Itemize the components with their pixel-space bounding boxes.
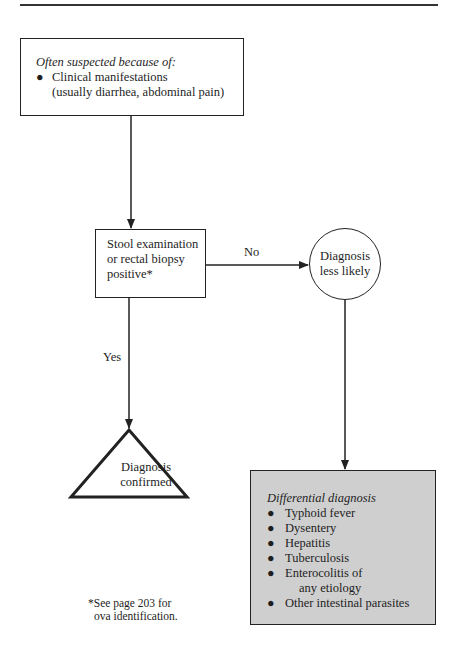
differential-item-text: Hepatitis	[285, 536, 330, 550]
bullet-icon: ●	[36, 70, 44, 85]
start-box-item-line2: (usually diarrhea, abdominal pain)	[52, 85, 235, 100]
decision-line-1: Stool examination	[107, 237, 201, 252]
bullet-icon: ●	[267, 521, 275, 536]
triangle-line-1: Diagnosis	[101, 460, 191, 475]
differential-item-text: Tuberculosis	[285, 551, 349, 565]
differential-item: ● Hepatitis	[267, 536, 429, 551]
start-box-item-line1: Clinical manifestations	[52, 70, 235, 85]
differential-item: ● Other intestinal parasites	[267, 596, 429, 611]
confirmed-triangle-label: Diagnosis confirmed	[101, 460, 191, 490]
decision-line-2: or rectal biopsy	[107, 252, 201, 267]
differential-item-text: Typhoid fever	[285, 506, 355, 520]
differential-item-continuation: any etiology	[285, 581, 429, 596]
differential-diagnosis-box: Differential diagnosis ● Typhoid fever ●…	[250, 470, 436, 625]
bullet-icon: ●	[267, 551, 275, 566]
circle-line-1: Diagnosis	[320, 249, 370, 264]
triangle-line-2: confirmed	[101, 475, 191, 490]
bullet-icon: ●	[267, 536, 275, 551]
bullet-icon: ●	[267, 566, 275, 581]
bullet-icon: ●	[267, 596, 275, 611]
footnote-line-2: ova identification.	[88, 610, 178, 623]
footnote: *See page 203 for ova identification.	[88, 597, 178, 623]
edge-label-no: No	[244, 245, 259, 260]
differential-item: ● Enterocolitis of any etiology	[267, 566, 429, 596]
footnote-line-1: *See page 203 for	[88, 597, 178, 610]
differential-item: ● Typhoid fever	[267, 506, 429, 521]
differential-item: ● Dysentery	[267, 521, 429, 536]
decision-line-3: positive*	[107, 267, 201, 282]
circle-line-2: less likely	[320, 264, 370, 279]
differential-item-text: Dysentery	[285, 521, 336, 535]
differential-item-text: Other intestinal parasites	[285, 596, 409, 610]
edge-label-yes: Yes	[103, 350, 121, 365]
start-box: Often suspected because of: ● Clinical m…	[20, 38, 244, 116]
less-likely-circle: Diagnosis less likely	[309, 228, 381, 300]
differential-item: ● Tuberculosis	[267, 551, 429, 566]
differential-title: Differential diagnosis	[267, 491, 429, 506]
start-box-title: Often suspected because of:	[36, 55, 235, 70]
bullet-icon: ●	[267, 506, 275, 521]
differential-item-text: Enterocolitis of	[285, 566, 429, 581]
decision-box: Stool examination or rectal biopsy posit…	[95, 229, 206, 298]
start-box-item: ● Clinical manifestations (usually diarr…	[36, 70, 235, 100]
